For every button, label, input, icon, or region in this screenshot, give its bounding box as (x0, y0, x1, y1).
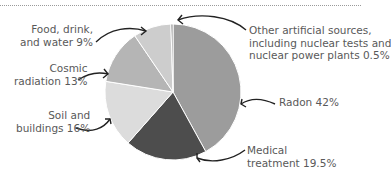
label-soil: Soil andbuildings 16% (16, 109, 90, 134)
label-cosmic: Cosmicradiation 13% (14, 62, 88, 87)
label-radon: Radon 42% (279, 96, 339, 109)
label-other: Other artificial sources,including nucle… (249, 24, 391, 62)
label-food: Food, drink,and water 9% (20, 23, 93, 48)
label-medical: Medicaltreatment 19.5% (247, 144, 336, 169)
